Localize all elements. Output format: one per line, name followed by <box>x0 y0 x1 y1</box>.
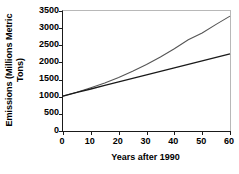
y-axis-tick-label: 0 <box>26 126 59 135</box>
plot-svg <box>63 11 230 131</box>
x-axis-tick-labels: 0102030405060 <box>62 136 229 150</box>
y-axis-tick-mark <box>59 62 63 63</box>
x-axis-tick-label: 40 <box>158 136 188 146</box>
x-axis-tick-mark <box>63 131 64 135</box>
y-axis-tick-mark <box>59 28 63 29</box>
y-axis-tick-mark <box>59 97 63 98</box>
x-axis-tick-mark <box>202 131 203 135</box>
y-axis-tick-label: 1500 <box>26 74 59 83</box>
series-exponential-growth-line <box>63 16 230 96</box>
x-axis-tick-label: 10 <box>75 136 105 146</box>
x-axis-tick-mark <box>119 131 120 135</box>
y-axis-tick-labels: 0500100015002000250030003500 <box>26 0 59 140</box>
x-axis-tick-label: 50 <box>186 136 216 146</box>
y-axis-tick-label: 2000 <box>26 57 59 66</box>
y-axis-tick-label: 500 <box>26 108 59 117</box>
x-axis-tick-mark <box>174 131 175 135</box>
x-axis-tick-mark <box>91 131 92 135</box>
y-axis-tick-label: 3500 <box>26 6 59 15</box>
y-axis-tick-label: 1000 <box>26 91 59 100</box>
y-axis-tick-mark <box>59 80 63 81</box>
x-axis-tick-mark <box>230 131 231 135</box>
x-axis-tick-label: 0 <box>47 136 77 146</box>
y-axis-tick-mark <box>59 11 63 12</box>
y-axis-tick-label: 3000 <box>26 23 59 32</box>
x-axis-tick-mark <box>147 131 148 135</box>
x-axis-tick-label: 20 <box>103 136 133 146</box>
y-axis-tick-mark <box>59 114 63 115</box>
plot-area <box>62 10 231 132</box>
x-axis-tick-label: 60 <box>214 136 239 146</box>
y-axis-tick-mark <box>59 45 63 46</box>
x-axis-title: Years after 1990 <box>62 152 229 163</box>
y-axis-title-line1: Emissions (Millions Metric <box>4 13 15 126</box>
series-linear-growth-line <box>63 54 230 96</box>
x-axis-tick-label: 30 <box>131 136 161 146</box>
emissions-chart-figure: Emissions (Millions Metric Tons) 0500100… <box>0 0 239 174</box>
y-axis-tick-label: 2500 <box>26 40 59 49</box>
y-axis-title: Emissions (Millions Metric Tons) <box>4 13 26 126</box>
y-axis-title-line2: Tons) <box>15 13 26 126</box>
